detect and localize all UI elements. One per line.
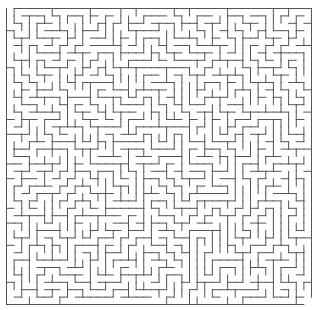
maze-puzzle bbox=[0, 0, 317, 310]
maze-grid bbox=[0, 0, 317, 310]
maze-walls bbox=[7, 9, 312, 305]
